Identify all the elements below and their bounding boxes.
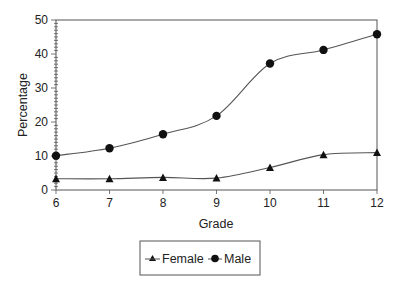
x-axis-title: Grade bbox=[199, 217, 234, 231]
x-tick-label: 6 bbox=[53, 196, 60, 210]
series-female bbox=[52, 149, 381, 183]
circle-marker-icon bbox=[159, 130, 167, 138]
y-tick-label: 10 bbox=[35, 149, 49, 163]
y-axis: 01020304050 bbox=[35, 13, 58, 197]
x-tick-label: 7 bbox=[106, 196, 113, 210]
circle-marker-icon bbox=[211, 255, 219, 263]
x-axis: 6789101112 bbox=[53, 190, 384, 210]
legend-label-female: Female bbox=[162, 252, 204, 266]
x-tick-label: 10 bbox=[263, 196, 277, 210]
legend-label-male: Male bbox=[224, 252, 251, 266]
plot-frame bbox=[56, 20, 377, 190]
y-tick-label: 20 bbox=[35, 115, 49, 129]
y-tick-label: 50 bbox=[35, 13, 49, 27]
circle-marker-icon bbox=[52, 151, 60, 159]
circle-marker-icon bbox=[373, 30, 381, 38]
legend: Female Male bbox=[140, 241, 260, 275]
plot-border bbox=[56, 20, 377, 190]
y-tick-label: 40 bbox=[35, 47, 49, 61]
y-axis-title: Percentage bbox=[16, 73, 30, 137]
circle-marker-icon bbox=[105, 144, 113, 152]
circle-marker-icon bbox=[212, 112, 220, 120]
series-line bbox=[56, 34, 377, 155]
series-layer bbox=[52, 30, 381, 182]
x-tick-label: 11 bbox=[317, 196, 330, 210]
line-chart: 01020304050 6789101112 Percentage Grade … bbox=[0, 0, 407, 292]
x-tick-label: 9 bbox=[213, 196, 220, 210]
x-tick-label: 12 bbox=[370, 196, 384, 210]
x-tick-label: 8 bbox=[160, 196, 167, 210]
circle-marker-icon bbox=[319, 46, 327, 54]
series-male bbox=[52, 30, 381, 160]
y-tick-label: 0 bbox=[41, 183, 48, 197]
y-tick-label: 30 bbox=[35, 81, 49, 95]
circle-marker-icon bbox=[266, 59, 274, 67]
